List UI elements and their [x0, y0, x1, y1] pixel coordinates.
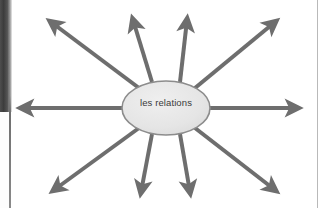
- arrow-northwest: [51, 22, 139, 88]
- arrow-southeast: [195, 128, 275, 190]
- scanned-page: les relations: [0, 0, 325, 208]
- arrow-northeast: [195, 22, 275, 88]
- arrow-north-right: [180, 20, 187, 82]
- arrow-south-right: [180, 134, 190, 192]
- arrow-south-left: [141, 134, 152, 192]
- arrow-southwest: [54, 128, 139, 190]
- center-node-label: les relations: [122, 96, 210, 109]
- arrow-north-left: [133, 20, 152, 82]
